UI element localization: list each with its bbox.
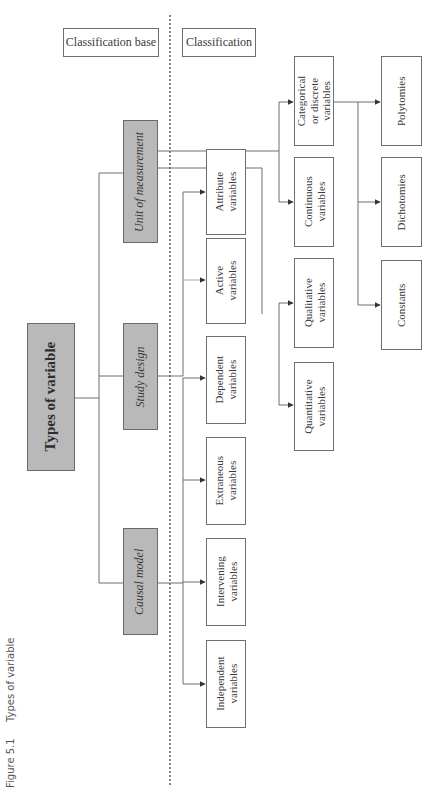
node-quantitative-variables: Quantitativevariables <box>294 362 334 451</box>
node-line: variables <box>320 76 333 127</box>
base-unit-label: Unit of measurement <box>134 131 148 231</box>
node-line: variables <box>314 379 327 433</box>
classification-header: Classification <box>182 28 256 57</box>
node-line: Polytomies <box>395 76 408 126</box>
classification-base-header: Classification base <box>63 28 159 57</box>
node-attribute-variables: Attributevariables <box>206 149 246 235</box>
classification-label: Classification <box>186 35 252 50</box>
node-line: variables <box>226 261 239 301</box>
base-unit-of-measurement: Unit of measurement <box>123 120 158 243</box>
node-line: or discrete <box>308 76 321 127</box>
node-line: Dependent <box>213 356 226 404</box>
node-line: Independent <box>213 657 226 711</box>
node-extraneous-variables: Extraneousvariables <box>206 437 246 525</box>
root-label: Types of variable <box>42 342 59 452</box>
node-dichotomies: Dichotomies <box>381 157 422 247</box>
node-line: Extraneous <box>213 456 226 505</box>
node-line: Attribute <box>213 172 226 212</box>
node-line: Qualitative <box>301 279 314 328</box>
root-node: Types of variable <box>27 323 75 471</box>
node-line: variables <box>226 557 239 608</box>
node-line: variables <box>226 657 239 711</box>
base-study-label: Study design <box>134 346 148 407</box>
node-dependent-variables: Dependentvariables <box>206 336 246 424</box>
node-line: Categorical <box>295 76 308 127</box>
classification-base-label: Classification base <box>66 35 156 50</box>
node-line: Constants <box>395 283 408 326</box>
node-line: Quantitative <box>301 379 314 433</box>
node-line: Active <box>213 261 226 301</box>
node-polytomies: Polytomies <box>381 56 422 146</box>
node-active-variables: Activevariables <box>206 238 246 324</box>
node-line: variables <box>226 356 239 404</box>
node-line: Intervening <box>213 557 226 608</box>
node-independent-variables: Independentvariables <box>206 640 246 728</box>
node-qualitative-variables: Qualitativevariables <box>294 258 334 348</box>
base-study-design: Study design <box>123 323 158 430</box>
node-constants: Constants <box>381 260 422 350</box>
node-intervening-variables: Interveningvariables <box>206 538 246 626</box>
node-continuous-variables: Continuousvariables <box>294 157 334 247</box>
node-line: variables <box>226 456 239 505</box>
node-line: variables <box>226 172 239 212</box>
node-line: Continuous <box>301 177 314 228</box>
node-line: Dichotomies <box>395 174 408 230</box>
node-line: variables <box>314 177 327 228</box>
base-causal-label: Causal model <box>134 548 148 614</box>
base-causal-model: Causal model <box>123 528 158 635</box>
node-categorical-variables: Categoricalor discretevariables <box>294 56 334 146</box>
node-line: variables <box>314 279 327 328</box>
